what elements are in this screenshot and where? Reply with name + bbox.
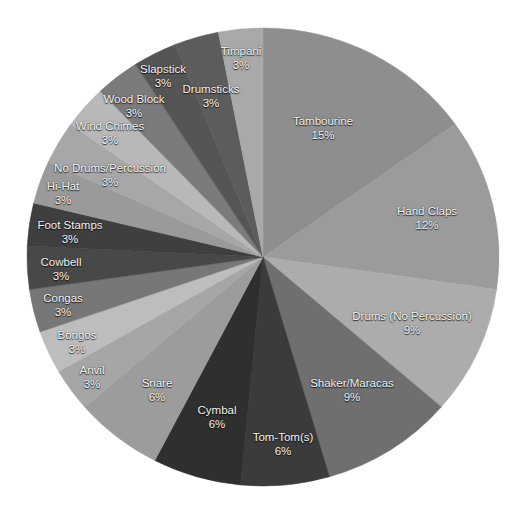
pie-slices: [27, 28, 499, 486]
pie-chart: [0, 0, 524, 512]
